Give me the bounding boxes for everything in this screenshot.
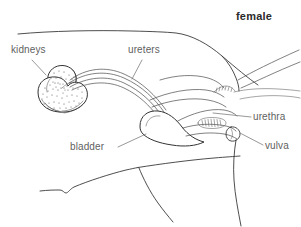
leader-ureters — [132, 60, 142, 79]
rump-fold-line-2 — [240, 96, 300, 99]
bladder-shape — [140, 111, 204, 146]
figure-title: female — [236, 11, 272, 22]
label-kidneys: kidneys — [11, 45, 46, 55]
pelvis-mid-curve — [150, 89, 224, 100]
hind-leg-rear-line — [234, 140, 241, 226]
leader-kidneys — [32, 60, 46, 75]
rump-contour — [222, 56, 239, 91]
kidneys-group — [38, 65, 87, 113]
tail-lower-line — [241, 62, 300, 88]
urethra-upper-line — [183, 124, 236, 131]
belly-line-right — [138, 156, 240, 168]
label-urethra: urethra — [253, 112, 285, 122]
leader-bladder — [118, 134, 146, 147]
rump-fold-line-1 — [234, 89, 300, 92]
pelvic-notch-hatching — [216, 87, 232, 93]
leader-vulva — [240, 133, 263, 145]
bladder-group — [140, 111, 204, 146]
uterus-oval-hatching — [202, 119, 221, 126]
pelvis-upper-curve — [160, 76, 224, 88]
anatomy-figure: female kidneys ureters bladder urethra v… — [0, 0, 301, 227]
pelvic-floor-curve — [176, 110, 237, 122]
label-ureters: ureters — [128, 45, 160, 55]
vulva-crease — [231, 129, 233, 139]
label-bladder: bladder — [70, 142, 104, 152]
hind-leg-front-line — [139, 168, 173, 222]
label-vulva: vulva — [265, 141, 289, 151]
belly-line — [40, 168, 138, 194]
leader-urethra — [213, 113, 251, 117]
